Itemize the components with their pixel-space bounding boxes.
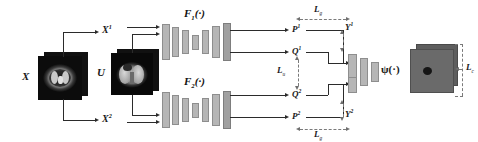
- q2-route-vline: [328, 84, 329, 95]
- u-top-vline: [132, 34, 133, 53]
- f1-to-q1-line: [230, 52, 285, 53]
- q1-arrowhead: [285, 50, 289, 54]
- fusion-block-bottom: [348, 77, 357, 93]
- lg-top-arrow-right: [346, 17, 350, 21]
- y1-dashed: [343, 34, 344, 48]
- f2-bar-6: [212, 94, 220, 126]
- f1-bar-5: [202, 30, 209, 54]
- f2-bar-5: [202, 98, 209, 122]
- lc-dashed-top-tick: [455, 44, 463, 45]
- label-f2-network: F2(·): [184, 76, 205, 90]
- lc-dashed-bottom-tick: [455, 96, 463, 97]
- x-bottom-branch-vline: [63, 99, 64, 120]
- x1-to-f1-arrowhead: [156, 25, 160, 29]
- output-slice-front: [410, 49, 454, 93]
- label-x1: X1: [102, 24, 112, 35]
- label-q1: Q1: [292, 46, 301, 56]
- u-bottom-hline: [132, 115, 156, 116]
- lu-arrow-down: [295, 86, 299, 90]
- u-top-arrowhead: [156, 32, 160, 36]
- fusion-block-top: [348, 54, 357, 78]
- lu-dashed-line: [298, 60, 299, 86]
- f2-to-p2-line: [230, 117, 285, 118]
- x2-arrowhead: [95, 118, 99, 122]
- label-y1: Y1: [345, 22, 353, 32]
- label-f1-network: F1(·): [184, 8, 205, 22]
- u-bottom-vline: [132, 95, 133, 115]
- f2-to-q2-line: [230, 95, 285, 96]
- q2-route-hline: [306, 95, 328, 96]
- y1-arrow-down: [340, 48, 344, 52]
- segmentation-blob: [423, 67, 432, 75]
- f1-bar-7: [223, 23, 231, 61]
- p2-arrowhead: [285, 115, 289, 119]
- x2-to-f2-line: [127, 122, 156, 123]
- u-slice-front: [111, 53, 153, 95]
- lg-bottom-dashed: [300, 129, 346, 130]
- f1-bar-3: [182, 30, 189, 54]
- label-psi-network: ψ(·): [381, 64, 400, 75]
- x-top-branch-hline: [63, 32, 95, 33]
- p2-route-hline: [306, 117, 343, 118]
- f2-bar-7: [223, 91, 231, 129]
- p1-route-hline: [306, 30, 343, 31]
- label-x2: X2: [102, 113, 112, 124]
- f1-to-p1-line: [230, 30, 285, 31]
- p1-arrowhead: [285, 28, 289, 32]
- x-slice-front: [38, 56, 82, 100]
- u-bottom-arrowhead: [156, 113, 160, 117]
- lc-tick-line: [459, 69, 463, 70]
- f1-bar-4: [192, 35, 199, 50]
- label-loss-g-top: Lg: [314, 5, 322, 16]
- u-top-hline: [132, 34, 156, 35]
- f1-bar-1: [162, 24, 170, 60]
- lg-top-dashed: [300, 19, 346, 20]
- x1-to-f1-line: [127, 27, 156, 28]
- label-loss-u: Lu: [277, 66, 285, 77]
- lc-dashed-vline: [462, 44, 463, 96]
- architecture-diagram: X X1 X2 U F1(·) F2(: [0, 0, 478, 142]
- q1-route-hline: [306, 52, 328, 53]
- y2-arrow-down: [340, 117, 344, 121]
- x2-to-f2-arrowhead: [156, 120, 160, 124]
- y2-dashed: [343, 104, 344, 117]
- label-q2: Q2: [292, 89, 301, 99]
- x-bottom-branch-hline: [63, 120, 95, 121]
- f2-bar-4: [192, 103, 199, 118]
- label-y2: Y2: [345, 109, 353, 119]
- label-x: X: [22, 71, 29, 82]
- label-loss-c: Lc: [466, 63, 474, 74]
- q1-route-vline: [328, 52, 329, 63]
- label-p1: P1: [292, 24, 300, 34]
- label-u: U: [97, 67, 105, 78]
- label-p2: P2: [292, 111, 300, 121]
- f1-bar-6: [212, 26, 220, 58]
- label-loss-g-bottom: Lg: [314, 130, 322, 141]
- f2-bar-3: [182, 98, 189, 122]
- f1-bar-2: [172, 27, 179, 57]
- q2-arrowhead: [285, 93, 289, 97]
- lg-bottom-arrow-right: [346, 127, 350, 131]
- f2-bar-2: [172, 95, 179, 125]
- q1-into-block: [328, 63, 346, 64]
- decoder-block-1: [360, 58, 368, 86]
- f2-bar-1: [162, 92, 170, 128]
- x1-arrowhead: [95, 30, 99, 34]
- decoder-block-2: [371, 62, 379, 82]
- x-top-branch-vline: [63, 32, 64, 57]
